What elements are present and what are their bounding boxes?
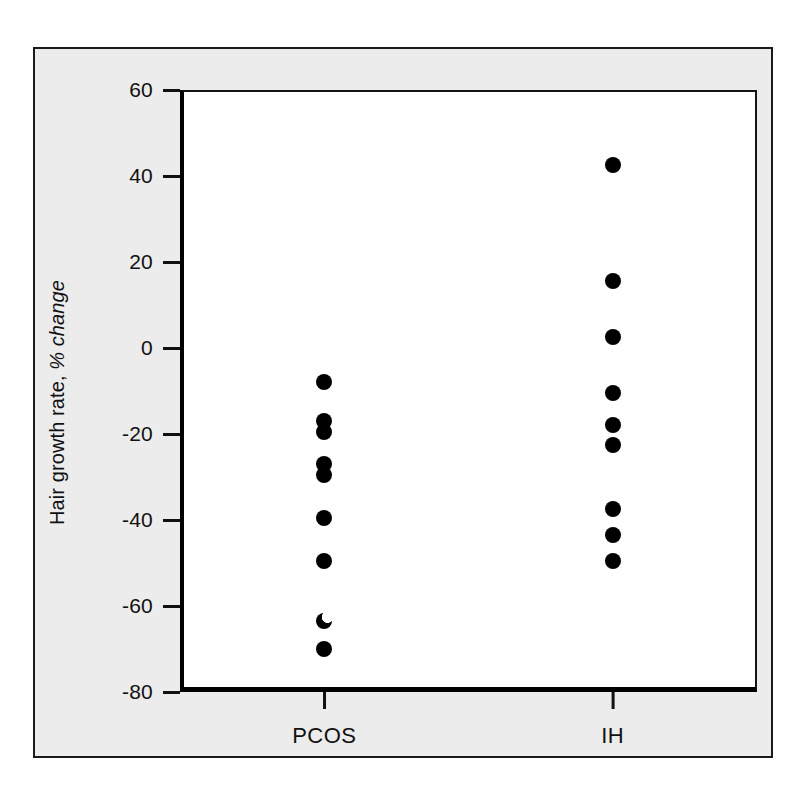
x-tick-label: PCOS [292,723,356,749]
y-tick-label: 0 [141,336,153,360]
data-point [605,553,621,569]
data-point [605,273,621,289]
y-axis-title: Hair growth rate, % change [46,193,69,613]
y-tick-mark [163,261,180,264]
x-tick-mark [611,692,614,709]
x-tick-mark [323,692,326,709]
y-tick-mark [163,175,180,178]
y-axis-title-italic: % change [46,280,68,370]
x-tick-label: IH [601,723,624,749]
y-tick-label: 40 [129,164,153,188]
x-tick-pcos: PCOS [292,692,356,749]
data-point [605,437,621,453]
data-point [605,527,621,543]
y-tick-label: -60 [122,594,153,618]
y-tick-label: -40 [122,508,153,532]
y-axis-title-plain: Hair growth rate, [46,375,68,525]
y-tick-label: -80 [122,680,153,704]
y-tick-label: 20 [129,250,153,274]
y-tick-mark [163,605,180,608]
data-point [316,467,332,483]
figure-frame: Hair growth rate, % change 6040200-20-40… [33,47,773,758]
data-point [316,553,332,569]
x-tick-ih: IH [601,692,624,749]
y-tick-mark [163,691,180,694]
data-point [605,385,621,401]
y-tick-mark [163,433,180,436]
y-tick-mark [163,347,180,350]
y-tick-label: -20 [122,422,153,446]
data-point [605,157,621,173]
y-tick-label: 60 [129,78,153,102]
y-tick-mark [163,89,180,92]
y-tick-mark [163,519,180,522]
data-point [316,424,332,440]
data-point [316,510,332,526]
plot-area [180,90,757,692]
data-point [605,329,621,345]
data-point [605,501,621,517]
